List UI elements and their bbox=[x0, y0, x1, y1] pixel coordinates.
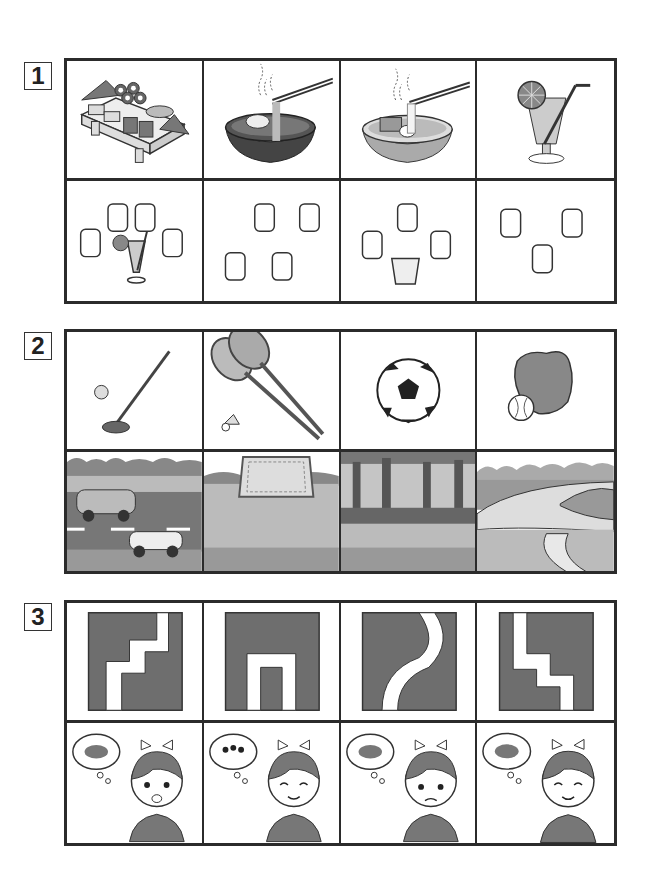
option-staircase-pattern[interactable]: staircase path pattern bbox=[67, 603, 204, 723]
option-golf[interactable]: golf club and ball bbox=[67, 332, 204, 452]
noodle-bowl-icon bbox=[341, 61, 476, 178]
soccer-ball-icon bbox=[341, 332, 476, 449]
girl-surprised-icon bbox=[67, 723, 202, 843]
girl-worried-icon bbox=[341, 723, 476, 843]
juice-glass-icon bbox=[477, 61, 614, 178]
option-sushi[interactable]: sushi platter bbox=[67, 61, 204, 181]
arch-path-icon bbox=[204, 603, 339, 720]
option-badminton[interactable]: badminton rackets and shuttlecock bbox=[204, 332, 341, 452]
question-3-panel: staircase path pattern arch path pattern… bbox=[64, 600, 617, 846]
badminton-racket-icon bbox=[204, 332, 339, 449]
girl-happy-icon bbox=[204, 723, 339, 843]
forest-scene-icon bbox=[341, 452, 476, 572]
question-2-panel: golf club and ball badminton rackets and… bbox=[64, 329, 617, 574]
question-number-badge: 2 bbox=[24, 332, 52, 360]
option-road[interactable]: road with cars bbox=[67, 452, 204, 572]
running-track-scene-icon bbox=[477, 452, 614, 572]
teacup-group-icon bbox=[341, 181, 476, 301]
sushi-icon bbox=[67, 61, 202, 178]
option-teacups-with-water[interactable]: 3 hot teacups and 1 glass of water bbox=[341, 181, 478, 301]
reverse-staircase-path-icon bbox=[477, 603, 614, 720]
option-three-teacups[interactable]: 3 hot teacups bbox=[477, 181, 614, 301]
option-forest[interactable]: forest bbox=[341, 452, 478, 572]
option-track[interactable]: running track bbox=[477, 452, 614, 572]
option-reverse-staircase-pattern[interactable]: reversed staircase path pattern bbox=[477, 603, 614, 723]
field-goal-scene-icon bbox=[204, 452, 339, 572]
option-juice[interactable]: juice with lemon slice and straw bbox=[477, 61, 614, 181]
question-number-badge: 1 bbox=[24, 62, 52, 90]
option-girl-happy-pillbug[interactable]: girl smiling, thinking of pill bug bbox=[477, 723, 614, 843]
question-1-panel: sushi platter tempura soba bowl bbox=[64, 58, 617, 304]
road-scene-icon bbox=[67, 452, 202, 572]
option-soccer[interactable]: soccer ball bbox=[341, 332, 478, 452]
teacup-group-icon bbox=[204, 181, 339, 301]
option-arch-pattern[interactable]: arch path pattern bbox=[204, 603, 341, 723]
option-udon[interactable]: udon noodle bowl bbox=[341, 61, 478, 181]
option-girl-worried[interactable]: girl worried, thinking of pill bug bbox=[341, 723, 478, 843]
option-girl-happy-ant[interactable]: girl smiling, thinking of ant bbox=[204, 723, 341, 843]
option-teacups-with-juice[interactable]: 4 hot teacups and 1 juice bbox=[67, 181, 204, 301]
staircase-path-icon bbox=[67, 603, 202, 720]
teacup-group-icon bbox=[67, 181, 202, 301]
option-girl-surprised[interactable]: girl surprised, thinking of pill bug bbox=[67, 723, 204, 843]
teacup-group-icon bbox=[477, 181, 614, 301]
question-number-badge: 3 bbox=[24, 603, 52, 631]
curved-path-icon bbox=[341, 603, 476, 720]
golf-club-icon bbox=[67, 332, 202, 449]
girl-happy-icon bbox=[477, 723, 614, 843]
option-four-teacups[interactable]: 4 hot teacups bbox=[204, 181, 341, 301]
option-field[interactable]: grass field with goal net bbox=[204, 452, 341, 572]
noodle-bowl-icon bbox=[204, 61, 339, 178]
baseball-glove-icon bbox=[477, 332, 614, 449]
option-curve-pattern[interactable]: curved path pattern bbox=[341, 603, 478, 723]
option-baseball[interactable]: baseball glove and ball bbox=[477, 332, 614, 452]
option-tempura-soba[interactable]: tempura soba bowl bbox=[204, 61, 341, 181]
